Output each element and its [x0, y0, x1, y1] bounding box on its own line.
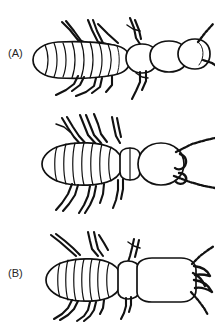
- head-b: [138, 143, 184, 185]
- head-c: [137, 258, 196, 302]
- legs-upper-b: [56, 114, 121, 146]
- head-a: [178, 39, 210, 69]
- abdomen-a: [33, 42, 130, 79]
- panel-b: (B): [0, 110, 215, 218]
- panel-a: (A): [0, 0, 215, 110]
- thorax-b: [120, 148, 140, 180]
- thorax-c: [118, 261, 139, 299]
- specimen-drawing-b: [0, 110, 215, 218]
- panel-c: (C): [0, 218, 215, 323]
- legs-upper-c: [51, 232, 140, 262]
- figure-plate: (A): [0, 0, 215, 323]
- specimen-drawing-a: [0, 0, 215, 110]
- abdomen-b: [42, 143, 122, 185]
- specimen-drawing-c: [0, 218, 215, 323]
- abdomen-c: [46, 259, 121, 301]
